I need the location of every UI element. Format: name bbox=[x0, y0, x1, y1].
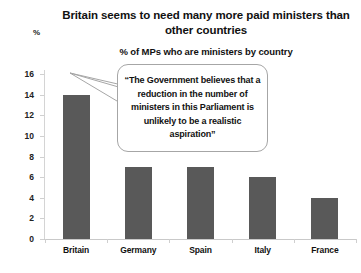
x-axis-tick-mark bbox=[356, 239, 357, 243]
x-axis-label-germany: Germany bbox=[107, 245, 169, 255]
y-axis-tick-mark bbox=[40, 136, 44, 137]
x-axis-tick-mark bbox=[169, 239, 170, 243]
chart-title-block: Britain seems to need many more paid min… bbox=[58, 8, 354, 38]
y-axis-line bbox=[44, 70, 45, 240]
y-axis-tick-label: 12 bbox=[0, 110, 34, 120]
y-axis-tick-mark bbox=[40, 115, 44, 116]
y-axis-tick-mark bbox=[40, 74, 44, 75]
y-axis-tick-label: 10 bbox=[0, 131, 34, 141]
y-axis-tick-label: 4 bbox=[0, 193, 34, 203]
callout-tail-icon bbox=[70, 71, 122, 105]
y-axis-tick-mark bbox=[40, 157, 44, 158]
bar-france bbox=[311, 198, 338, 239]
x-axis-label-france: France bbox=[294, 245, 356, 255]
chart-subtitle: % of MPs who are ministers by country bbox=[58, 46, 354, 57]
bar-chart: Britain seems to need many more paid min… bbox=[0, 0, 361, 273]
bar-spain bbox=[187, 167, 214, 239]
x-axis-label-britain: Britain bbox=[45, 245, 107, 255]
y-axis-tick-mark bbox=[40, 95, 44, 96]
y-axis-tick-mark bbox=[40, 218, 44, 219]
x-axis-tick-mark bbox=[107, 239, 108, 243]
x-axis-tick-mark bbox=[45, 239, 46, 243]
x-axis-tick-mark bbox=[294, 239, 295, 243]
y-axis-tick-label: 0 bbox=[0, 234, 34, 244]
y-axis-tick-label: 16 bbox=[0, 69, 34, 79]
bar-italy bbox=[249, 177, 276, 239]
x-axis-label-italy: Italy bbox=[232, 245, 294, 255]
y-axis-tick-mark bbox=[40, 177, 44, 178]
bar-britain bbox=[63, 95, 90, 239]
bar-germany bbox=[125, 167, 152, 239]
y-axis-tick-mark bbox=[40, 198, 44, 199]
chart-title: Britain seems to need many more paid min… bbox=[58, 8, 354, 38]
x-axis-line bbox=[44, 239, 357, 240]
y-axis-tick-label: 6 bbox=[0, 172, 34, 182]
x-axis-label-spain: Spain bbox=[170, 245, 232, 255]
x-axis-tick-mark bbox=[232, 239, 233, 243]
y-axis-unit-label: % bbox=[22, 28, 40, 37]
y-axis-tick-label: 8 bbox=[0, 152, 34, 162]
quote-callout-text: “The Government believes that a reductio… bbox=[118, 74, 267, 142]
y-axis-tick-label: 2 bbox=[0, 213, 34, 223]
y-axis-tick-mark bbox=[40, 239, 44, 240]
y-axis-tick-label: 14 bbox=[0, 90, 34, 100]
quote-callout: “The Government believes that a reductio… bbox=[117, 64, 268, 152]
